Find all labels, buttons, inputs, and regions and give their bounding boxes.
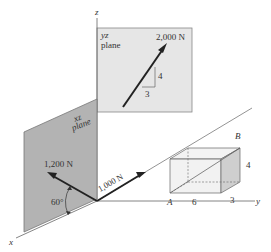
force-1000-label: 1,000 N (96, 171, 125, 193)
box-depth-label: 3 (230, 195, 235, 205)
x-axis-label: x (8, 237, 13, 247)
force-1200-label: 1,200 N (44, 159, 74, 169)
force-diagram: z y x yz plane xz plane 2,000 N 4 3 1,20… (0, 0, 271, 252)
y-axis-label: y (255, 196, 260, 206)
slope-rise-label: 4 (158, 71, 163, 81)
force-2000-label: 2,000 N (156, 32, 186, 42)
point-a-label: A (166, 197, 173, 207)
angle-label: 60° (51, 197, 64, 207)
yz-plane-label: yz (100, 30, 109, 40)
slope-run-label: 3 (145, 89, 150, 99)
point-b-label: B (235, 131, 241, 141)
yz-plane-label: plane (101, 40, 121, 50)
box-length-label: 6 (192, 197, 197, 207)
z-axis-label: z (94, 7, 99, 17)
box-height-label: 4 (246, 160, 251, 170)
